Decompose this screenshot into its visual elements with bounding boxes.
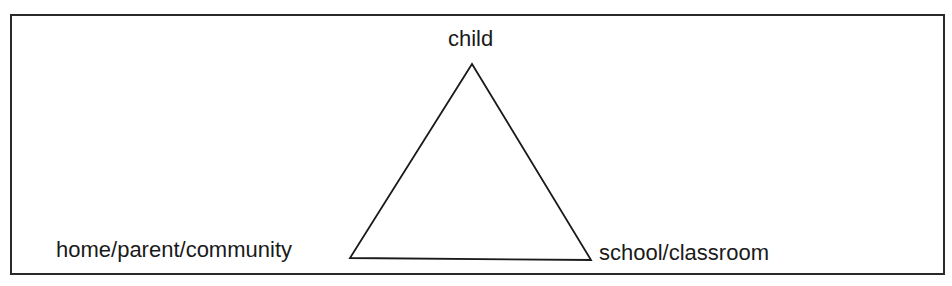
node-label-school-classroom: school/classroom	[599, 242, 769, 264]
node-label-home-parent-community: home/parent/community	[56, 239, 292, 261]
node-label-child: child	[448, 28, 493, 50]
